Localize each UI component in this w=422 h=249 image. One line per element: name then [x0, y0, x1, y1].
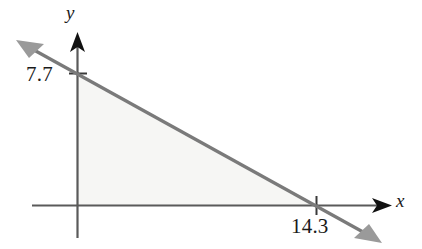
y-axis-label: y [66, 3, 74, 22]
coordinate-plane [0, 0, 422, 249]
arrow-down-right-icon [354, 224, 382, 243]
graph-figure: y x 7.7 14.3 [0, 0, 422, 249]
x-intercept-tick-label: 14.3 [291, 216, 329, 237]
y-intercept-tick-label: 7.7 [26, 64, 53, 85]
arrow-up-left-icon [16, 40, 44, 58]
x-axis-label: x [396, 191, 404, 210]
plotted-line [24, 45, 373, 238]
